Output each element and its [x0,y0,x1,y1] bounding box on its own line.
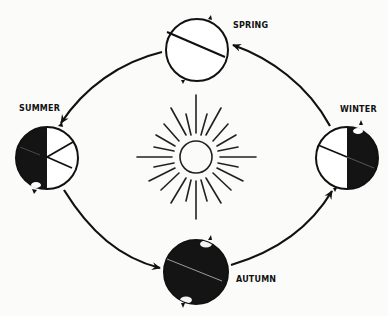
arrow-summer-to-autumn [64,190,160,268]
season-label-autumn: AUTUMN [236,275,276,284]
arrow-autumn-to-winter [231,191,332,265]
globe-autumn [164,235,228,308]
sun-icon [137,95,256,219]
season-label-winter: WINTER [340,105,377,114]
season-label-spring: SPRING [233,21,268,30]
globe-winter [316,120,380,192]
arrow-spring-to-summer [61,52,162,123]
globe-summer [14,122,78,194]
diagram-canvas: SPRING SUMMER AUTUMN WINTER [0,0,388,316]
season-label-summer: SUMMER [19,104,60,113]
seasons-orbit-diagram [0,0,388,316]
globe-spring [166,15,228,84]
arrow-winter-to-spring [233,45,330,126]
